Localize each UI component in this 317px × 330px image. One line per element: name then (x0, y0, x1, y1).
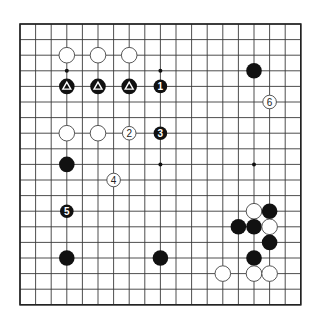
black-stone (246, 250, 262, 266)
white-stone: 4 (107, 173, 121, 187)
black-stone: 1 (154, 80, 168, 94)
black-stone (231, 219, 247, 235)
star-point (65, 69, 69, 73)
white-stone (90, 47, 106, 63)
black-stone (153, 250, 169, 266)
black-stone-icon (59, 157, 75, 173)
white-stone (215, 266, 231, 282)
black-stone (59, 79, 75, 95)
black-stone (121, 79, 137, 95)
white-stone (121, 47, 137, 63)
black-stone-icon (246, 63, 262, 79)
black-stone-icon (231, 219, 247, 235)
white-stone-icon (246, 266, 262, 282)
white-stone-icon (59, 125, 75, 141)
white-stone-icon (215, 266, 231, 282)
white-stone-icon (262, 219, 278, 235)
white-stone (59, 125, 75, 141)
black-stone (246, 219, 262, 235)
white-stone (262, 266, 278, 282)
white-stone: 2 (122, 126, 136, 140)
star-point (158, 69, 162, 73)
white-stone-icon (246, 203, 262, 219)
star-point (158, 162, 162, 166)
white-stone-icon (59, 47, 75, 63)
white-stone-icon (121, 47, 137, 63)
move-number-label: 4 (111, 175, 117, 186)
black-stone-icon (59, 250, 75, 266)
white-stone (262, 219, 278, 235)
black-stone: 5 (60, 204, 74, 218)
move-number-label: 1 (158, 81, 164, 92)
black-stone-icon (246, 250, 262, 266)
white-stone (246, 203, 262, 219)
white-stone (246, 266, 262, 282)
black-stone-icon (246, 219, 262, 235)
move-number-label: 2 (126, 128, 132, 139)
white-stone-icon (90, 47, 106, 63)
black-stone (90, 79, 106, 95)
move-number-label: 5 (64, 206, 70, 217)
white-stone (90, 125, 106, 141)
black-stone (59, 157, 75, 173)
white-stone-icon (90, 125, 106, 141)
go-board: 162345 (0, 0, 317, 330)
black-stone-icon (262, 203, 278, 219)
move-number-label: 3 (158, 128, 164, 139)
black-stone (59, 250, 75, 266)
black-stone (262, 203, 278, 219)
white-stone-icon (262, 266, 278, 282)
move-number-label: 6 (267, 97, 273, 108)
white-stone (59, 47, 75, 63)
black-stone (262, 235, 278, 251)
black-stone-icon (262, 235, 278, 251)
white-stone: 6 (263, 95, 277, 109)
black-stone-icon (153, 250, 169, 266)
black-stone: 3 (154, 126, 168, 140)
black-stone (246, 63, 262, 79)
star-point (252, 162, 256, 166)
